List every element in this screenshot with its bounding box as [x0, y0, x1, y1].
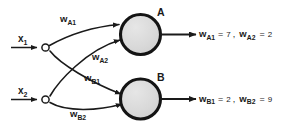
neuron-a: [121, 15, 161, 55]
output-values-a: wA1=7,wA2=2: [198, 28, 273, 41]
edge-x2-to-a: [50, 40, 120, 96]
neuron-label-a: A: [157, 6, 165, 18]
edge-label-wa1: wA1: [59, 13, 76, 26]
edge-label-wa2: wA2: [91, 51, 108, 64]
edge-label-wb1: wB1: [83, 72, 100, 85]
edge-x1-to-a: [50, 25, 120, 46]
junction-node-x1: [42, 44, 49, 51]
junction-node-x2: [42, 96, 49, 103]
edge-x2-to-b: [50, 103, 122, 110]
neural-network-diagram: x1 x2 wA1 wA2 wB1 wB2 A B wA1=7,wA2=2 wB…: [0, 0, 308, 130]
output-values-b: wB1=2,wB2=9: [198, 93, 273, 106]
neuron-b: [121, 79, 161, 119]
diagram-canvas: x1 x2 wA1 wA2 wB1 wB2 A B wA1=7,wA2=2 wB…: [0, 0, 308, 130]
input-label-x1: x1: [18, 33, 28, 46]
neuron-label-b: B: [157, 71, 165, 83]
input-label-x2: x2: [18, 85, 28, 98]
